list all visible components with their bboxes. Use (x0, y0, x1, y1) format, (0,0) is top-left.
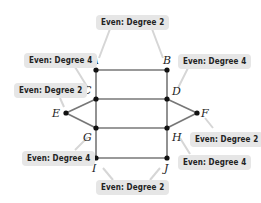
vertex-label-j: J (164, 163, 168, 174)
vertex-label-g: G (83, 132, 92, 143)
vertex-label-h: H (172, 132, 182, 143)
callout-degree-d: Even: Degree 4 (178, 54, 251, 69)
callout-degree-g: Even: Degree 4 (22, 151, 95, 166)
graph-diagram (0, 0, 261, 203)
callout-degree-e: Even: Degree 2 (14, 83, 87, 98)
callout-degree-top: Even: Degree 2 (96, 15, 169, 30)
vertex-label-f: F (201, 108, 209, 119)
callout-degree-f: Even: Degree 2 (190, 132, 261, 147)
vertex-label-d: D (172, 86, 181, 97)
callout-degree-h: Even: Degree 4 (178, 155, 251, 170)
callout-degree-bottom: Even: Degree 2 (96, 180, 169, 195)
callout-degree-c: Even: Degree 4 (24, 53, 97, 68)
vertex-label-b: B (163, 55, 171, 66)
vertex-label-e: E (52, 108, 60, 119)
